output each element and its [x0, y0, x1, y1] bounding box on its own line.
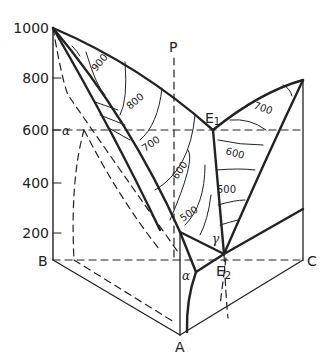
isotherm-label-right-700: 700 — [252, 100, 274, 117]
alpha-base-label: α — [182, 269, 190, 283]
alpha-axis-label: α — [62, 124, 70, 138]
tick-800: 800 — [22, 70, 49, 86]
corner-a-label: A — [175, 339, 185, 355]
liquidus-edge-b-e1 — [53, 28, 213, 130]
tick-600: 600 — [22, 122, 49, 138]
tick-400: 400 — [22, 175, 49, 191]
corner-c-label: C — [307, 253, 317, 269]
point-p-label: P — [169, 39, 177, 55]
isotherm-label-right-500: 500 — [217, 184, 236, 195]
corner-b-label: B — [38, 253, 48, 269]
edge-b-a — [53, 260, 180, 335]
point-e1-label: E1 — [205, 110, 220, 127]
tick-1000: 1000 — [13, 20, 49, 36]
isotherm-label-800: 800 — [124, 91, 146, 112]
phase-diagram: 1000 800 600 400 200 B A C P E1 E2 α α γ… — [0, 0, 326, 363]
gamma-label: γ — [212, 232, 220, 246]
tick-200: 200 — [22, 225, 49, 241]
point-e2-label: E2 — [216, 263, 231, 281]
isotherm-label-right-600: 600 — [224, 145, 245, 161]
isotherm-label-600: 600 — [170, 159, 190, 181]
